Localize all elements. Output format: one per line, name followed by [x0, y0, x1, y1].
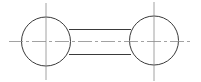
dumbbell-drawing	[0, 0, 201, 82]
drawing-canvas	[0, 0, 201, 82]
